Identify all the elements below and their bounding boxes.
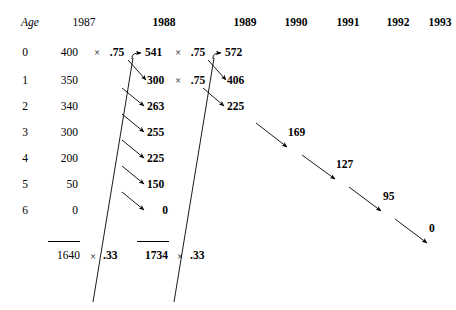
total-1988: 1734: [145, 250, 168, 262]
value-1988-age-3: 255: [147, 127, 164, 139]
value-1987-age-4: 200: [61, 153, 78, 165]
value-1987-age-6: 0: [72, 205, 78, 217]
header-year-1992: 1992: [387, 17, 410, 29]
sum-rule-1988: [137, 241, 169, 242]
header-year-1987: 1987: [73, 17, 96, 29]
value-1993-age-6: 0: [429, 223, 435, 235]
survival-arrows-1987-1988: [122, 60, 146, 210]
multiply-sign-total-1987: ×: [90, 252, 96, 262]
age-label-6: 6: [22, 205, 28, 217]
multiply-sign-1988-age-1: ×: [175, 76, 181, 86]
value-1987-age-5: 50: [67, 179, 79, 191]
survival-arrows-1988-1989: [203, 60, 226, 106]
value-1988-age-1: 300: [147, 75, 164, 87]
multiply-sign-total-1988: ×: [177, 252, 183, 262]
value-1987-age-0: 400: [61, 47, 78, 59]
total-1987: 1640: [57, 250, 80, 262]
value-1988-age-6: 0: [162, 205, 168, 217]
survival-rate-1987-age-0: .75: [110, 47, 124, 59]
age-label-3: 3: [22, 127, 28, 139]
header-year-1990: 1990: [285, 17, 308, 29]
value-1989-age-0: 572: [225, 47, 242, 59]
value-1987-age-3: 300: [61, 127, 78, 139]
header-year-1988: 1988: [153, 17, 176, 29]
projection-diagram: Age 1987 1988 1989 1990 1991 1992 1993 0…: [0, 0, 456, 310]
header-age-label: Age: [21, 17, 39, 29]
value-1987-age-1: 350: [61, 75, 78, 87]
birth-rate-1988: .33: [190, 250, 204, 262]
sum-rule-1987: [48, 241, 80, 242]
value-1989-age-1: 406: [227, 75, 244, 87]
multiply-sign-1988-age-0: ×: [175, 48, 181, 58]
survival-rate-1988-age-1: .75: [191, 75, 205, 87]
value-1987-age-2: 340: [61, 101, 78, 113]
birth-rate-1987: .33: [103, 250, 117, 262]
value-1988-age-2: 263: [147, 101, 164, 113]
value-1991-age-4: 127: [336, 159, 353, 171]
cohort-chain-arrows: [256, 123, 427, 243]
value-1988-age-4: 225: [147, 153, 164, 165]
value-1989-age-2: 225: [227, 101, 244, 113]
header-year-1989: 1989: [234, 17, 257, 29]
age-label-2: 2: [22, 101, 28, 113]
header-year-1991: 1991: [337, 17, 360, 29]
age-label-1: 1: [22, 75, 28, 87]
header-year-1993: 1993: [429, 17, 452, 29]
age-label-0: 0: [22, 47, 28, 59]
value-1992-age-5: 95: [383, 191, 395, 203]
age-label-4: 4: [22, 153, 28, 165]
value-1988-age-5: 150: [147, 179, 164, 191]
value-1988-age-0: 541: [145, 47, 162, 59]
age-label-5: 5: [22, 179, 28, 191]
multiply-sign-1987-age-0: ×: [94, 48, 100, 58]
survival-rate-1988-age-0: .75: [191, 47, 205, 59]
value-1990-age-3: 169: [288, 127, 305, 139]
